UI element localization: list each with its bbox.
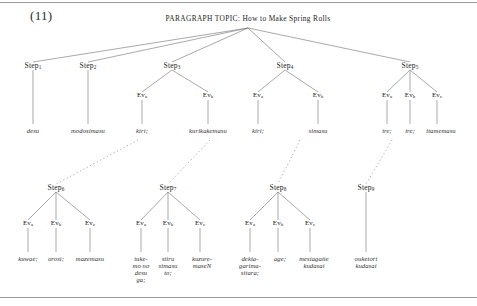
event-node: Eva xyxy=(245,220,255,227)
terminal-line: age; xyxy=(274,256,286,263)
step-node: Step4 xyxy=(277,62,294,70)
event-subscript: a xyxy=(144,222,146,227)
event-subscript: a xyxy=(31,222,33,227)
step-node: Step8 xyxy=(270,184,287,192)
event-label: Ev xyxy=(137,91,145,99)
terminal-line: itamemasu xyxy=(426,128,455,135)
step-subscript: 8 xyxy=(284,186,287,192)
terminal-word: kiri; xyxy=(136,128,148,135)
terminal-word: modosimasu xyxy=(71,128,105,135)
example-number: (11) xyxy=(30,8,52,24)
event-subscript: a xyxy=(145,94,147,99)
event-node: Evb xyxy=(51,220,61,227)
event-node: Eva xyxy=(23,220,33,227)
event-node: Eva xyxy=(136,220,146,227)
step-node: Step7 xyxy=(160,184,177,192)
terminal-word: itamemasu xyxy=(426,128,455,135)
step-node: Step9 xyxy=(358,184,375,192)
terminal-line: kurikakemasu xyxy=(189,128,227,135)
step-label: Step xyxy=(277,61,291,70)
step-label: Step xyxy=(160,183,174,192)
event-label: Ev xyxy=(313,91,321,99)
event-subscript: b xyxy=(281,222,283,227)
event-node: Eva xyxy=(382,92,392,99)
event-label: Ev xyxy=(245,219,253,227)
event-node: Eva xyxy=(253,92,263,99)
terminal-line: ga; xyxy=(133,277,150,284)
event-label: Ev xyxy=(163,219,171,227)
step-subscript: 6 xyxy=(62,186,65,192)
step-label: Step xyxy=(25,61,39,70)
terminal-line: kiri; xyxy=(136,128,148,135)
event-label: Ev xyxy=(273,219,281,227)
terminal-word: age; xyxy=(274,256,286,263)
terminal-line: orosi; xyxy=(48,256,64,263)
event-node: Eva xyxy=(137,92,147,99)
event-node: Evb xyxy=(203,92,213,99)
event-node: Evc xyxy=(195,220,205,227)
terminal-word: kuwae; xyxy=(18,256,38,263)
step-subscript: 7 xyxy=(174,186,177,192)
figure-canvas: (11) PARAGRAPH TOPIC: How to Make Spring… xyxy=(0,0,477,306)
event-label: Ev xyxy=(203,91,211,99)
step-label: Step xyxy=(402,61,416,70)
step-subscript: 4 xyxy=(291,64,294,70)
terminal-line: ire; xyxy=(405,128,415,135)
terminal-word: ire; xyxy=(382,128,392,135)
terminal-word: ire; xyxy=(405,128,415,135)
step-label: Step xyxy=(164,61,178,70)
terminal-word: tuke- mo no desu ga; xyxy=(133,256,150,284)
terminal-word: ouketori kudasai xyxy=(355,256,378,270)
event-subscript: b xyxy=(171,222,173,227)
event-label: Ev xyxy=(23,219,31,227)
top-rule xyxy=(0,2,477,3)
terminal-line: modosimasu xyxy=(71,128,105,135)
event-node: Evc xyxy=(305,220,315,227)
terminal-line: kudasai xyxy=(299,263,329,270)
event-subscript: b xyxy=(211,94,213,99)
terminal-word: dekia- garima- sitara; xyxy=(239,256,261,277)
terminal-word: kuzure- maseN xyxy=(192,256,212,270)
step-node: Step5 xyxy=(402,62,419,70)
terminal-line: kiri; xyxy=(252,128,264,135)
event-subscript: c xyxy=(440,94,442,99)
step-subscript: 2 xyxy=(94,64,97,70)
event-label: Ev xyxy=(195,219,203,227)
event-label: Ev xyxy=(51,219,59,227)
event-subscript: a xyxy=(261,94,263,99)
step-label: Step xyxy=(48,183,62,192)
step-node: Step1 xyxy=(25,62,42,70)
event-subscript: b xyxy=(59,222,61,227)
event-label: Ev xyxy=(405,91,413,99)
step-subscript: 3 xyxy=(178,64,181,70)
terminal-line: sitara; xyxy=(239,270,261,277)
step-label: Step xyxy=(80,61,94,70)
terminal-line: to; xyxy=(159,270,178,277)
terminal-word: kurikakemasu xyxy=(189,128,227,135)
terminal-line: kudasai xyxy=(355,263,378,270)
event-node: Evc xyxy=(85,220,95,227)
terminal-word: kiri; xyxy=(252,128,264,135)
terminal-word: mesiagatte kudasai xyxy=(299,256,329,270)
terminal-word: simasu xyxy=(309,128,328,135)
event-label: Ev xyxy=(253,91,261,99)
event-subscript: c xyxy=(203,222,205,227)
event-label: Ev xyxy=(85,219,93,227)
terminal-line: maseN xyxy=(192,263,212,270)
terminal-line: kuwae; xyxy=(18,256,38,263)
event-subscript: c xyxy=(313,222,315,227)
step-label: Step xyxy=(270,183,284,192)
event-label: Ev xyxy=(432,91,440,99)
event-label: Ev xyxy=(382,91,390,99)
step-node: Step2 xyxy=(80,62,97,70)
event-node: Evb xyxy=(163,220,173,227)
terminal-line: mazemasu xyxy=(76,256,104,263)
step-subscript: 9 xyxy=(372,186,375,192)
event-subscript: b xyxy=(321,94,323,99)
bottom-rule xyxy=(0,297,477,298)
step-subscript: 5 xyxy=(416,64,419,70)
event-node: Evb xyxy=(273,220,283,227)
terminal-word: mazemasu xyxy=(76,256,104,263)
event-subscript: a xyxy=(390,94,392,99)
event-label: Ev xyxy=(136,219,144,227)
